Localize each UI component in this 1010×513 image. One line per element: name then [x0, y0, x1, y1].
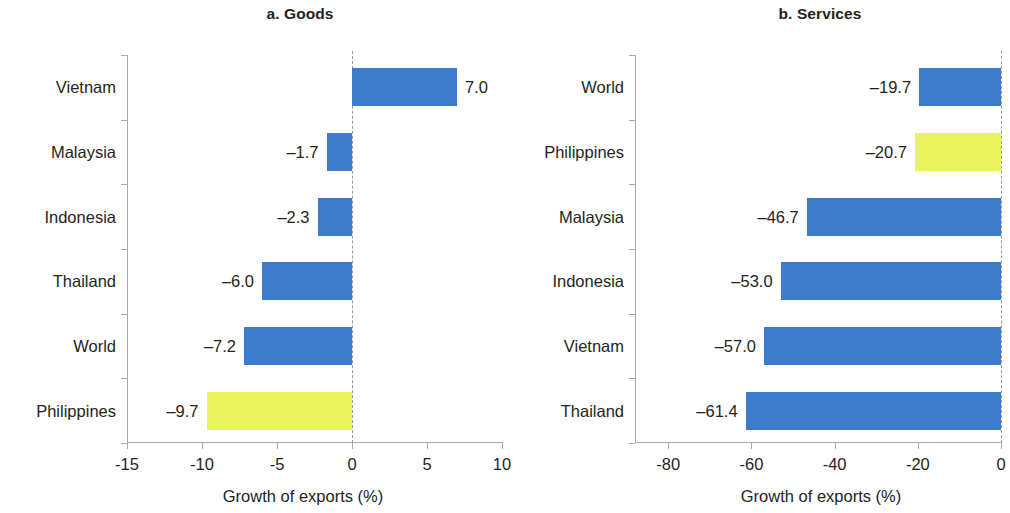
bar	[807, 198, 1001, 236]
x-axis-tick	[352, 443, 353, 449]
category-label: Philippines	[544, 143, 624, 162]
x-axis-tick-label: -80	[656, 455, 680, 474]
panel-title-services: b. Services	[501, 5, 1010, 23]
bar	[244, 327, 352, 365]
x-axis-spine-goods	[127, 442, 503, 443]
y-axis-tick	[629, 249, 635, 250]
x-axis-tick-label: -10	[190, 455, 214, 474]
y-axis-tick	[629, 55, 635, 56]
category-label: Indonesia	[552, 272, 624, 291]
x-axis-title-goods: Growth of exports (%)	[223, 487, 383, 506]
x-axis-tick-label: -20	[906, 455, 930, 474]
bar-value-label: –19.7	[870, 78, 911, 97]
category-label: Thailand	[53, 272, 116, 291]
y-axis-spine-services	[635, 55, 636, 443]
bar-value-label: –46.7	[757, 207, 798, 226]
y-axis-tick	[629, 184, 635, 185]
bar-value-label: –6.0	[222, 272, 254, 291]
bar-value-label: –61.4	[696, 401, 737, 420]
y-axis-tick	[121, 120, 127, 121]
x-axis-tick	[1001, 443, 1002, 449]
bar	[746, 392, 1001, 430]
x-axis-tick-label: -5	[270, 455, 285, 474]
bar	[764, 327, 1001, 365]
bar	[207, 392, 353, 430]
y-axis-tick	[121, 184, 127, 185]
zero-reference-line-services	[1001, 51, 1002, 443]
bar-value-label: 7.0	[465, 78, 488, 97]
x-axis-tick	[835, 443, 836, 449]
category-label: Malaysia	[51, 143, 116, 162]
bar	[915, 133, 1001, 171]
zero-reference-line-goods	[352, 51, 353, 443]
x-axis-tick-label: 0	[347, 455, 356, 474]
x-axis-tick	[918, 443, 919, 449]
bar-value-label: –1.7	[286, 143, 318, 162]
x-axis-tick	[427, 443, 428, 449]
bar-value-label: –7.2	[204, 337, 236, 356]
category-label: Vietnam	[56, 78, 116, 97]
bar-value-label: –57.0	[715, 337, 756, 356]
x-axis-tick-label: -60	[740, 455, 764, 474]
bar	[352, 68, 457, 106]
y-axis-tick	[629, 378, 635, 379]
category-label: Vietnam	[564, 337, 624, 356]
x-axis-title-services: Growth of exports (%)	[741, 487, 901, 506]
bar	[262, 262, 352, 300]
y-axis-spine-goods	[127, 55, 128, 443]
category-label: Indonesia	[44, 207, 116, 226]
x-axis-tick-label: -40	[823, 455, 847, 474]
y-axis-tick	[629, 314, 635, 315]
bar	[781, 262, 1001, 300]
x-axis-tick-label: 0	[996, 455, 1005, 474]
category-label: Malaysia	[559, 207, 624, 226]
x-axis-tick	[202, 443, 203, 449]
x-axis-tick	[127, 443, 128, 449]
y-axis-tick	[121, 249, 127, 250]
x-axis-tick	[751, 443, 752, 449]
bar-value-label: –53.0	[731, 272, 772, 291]
y-axis-tick	[629, 443, 635, 444]
chart-panel-services: b. Services World–19.7Philippines–20.7Ma…	[501, 0, 1003, 513]
x-axis-tick	[668, 443, 669, 449]
x-axis-tick-label: -15	[115, 455, 139, 474]
x-axis-tick	[277, 443, 278, 449]
x-axis-spine-services	[635, 442, 1002, 443]
x-axis-tick-label: 5	[422, 455, 431, 474]
bar-value-label: –2.3	[277, 207, 309, 226]
y-axis-tick	[121, 314, 127, 315]
bar	[327, 133, 353, 171]
y-axis-tick	[629, 120, 635, 121]
bar	[318, 198, 353, 236]
category-label: World	[73, 337, 116, 356]
bar	[919, 68, 1001, 106]
category-label: Thailand	[561, 401, 624, 420]
bar-value-label: –20.7	[866, 143, 907, 162]
category-label: World	[581, 78, 624, 97]
y-axis-tick	[121, 55, 127, 56]
plot-area-goods: Vietnam7.0Malaysia–1.7Indonesia–2.3Thail…	[127, 55, 502, 443]
category-label: Philippines	[36, 401, 116, 420]
bar-value-label: –9.7	[166, 401, 198, 420]
y-axis-tick	[121, 378, 127, 379]
chart-panel-goods: a. Goods Vietnam7.0Malaysia–1.7Indonesia…	[0, 0, 502, 513]
plot-area-services: World–19.7Philippines–20.7Malaysia–46.7I…	[635, 55, 1001, 443]
